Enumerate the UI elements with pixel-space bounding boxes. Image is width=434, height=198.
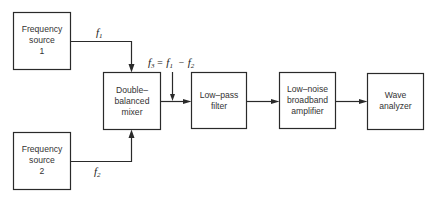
source2-line3: 2 xyxy=(40,166,45,176)
source2-line2: source xyxy=(29,155,55,165)
mixer-to-filter-connection xyxy=(161,99,192,104)
mixer-line3: mixer xyxy=(121,107,142,117)
analyzer-line1: Wave xyxy=(385,90,407,100)
source1-line1: Frequency xyxy=(22,24,63,34)
arrowhead-icon xyxy=(129,64,135,73)
amplifier-line2: broadband xyxy=(287,95,328,105)
f1-label: f1 xyxy=(96,26,103,40)
source1-line2: source xyxy=(29,35,55,45)
block-diagram: Frequency source 1 Frequency source 2 Do… xyxy=(0,0,434,198)
analyzer-line2: analyzer xyxy=(379,101,412,111)
source2-line1: Frequency xyxy=(22,144,63,154)
f3-equation-label: f3=f1−f2 xyxy=(148,56,195,70)
low-pass-filter-block: Low–pass filter xyxy=(192,73,247,129)
amplifier-line1: Low–noise xyxy=(287,84,328,94)
f1-connection xyxy=(71,42,135,73)
double-balanced-mixer-block: Double– balanced mixer xyxy=(104,73,161,130)
lowpass-line2: filter xyxy=(211,101,227,111)
arrowhead-icon xyxy=(271,99,280,104)
amplifier-line3: amplifier xyxy=(291,106,324,116)
wave-analyzer-block: Wave analyzer xyxy=(368,74,424,130)
filter-to-amplifier-connection xyxy=(247,99,280,104)
lowpass-line1: Low–pass xyxy=(200,90,239,100)
mixer-line1: Double– xyxy=(116,85,148,95)
frequency-source-1-block: Frequency source 1 xyxy=(14,13,71,70)
arrowhead-icon xyxy=(359,99,368,104)
source1-line3: 1 xyxy=(40,46,45,56)
f2-connection xyxy=(71,130,135,162)
arrowhead-icon xyxy=(183,99,192,104)
low-noise-amplifier-block: Low–noise broadband amplifier xyxy=(280,73,336,129)
mixer-line2: balanced xyxy=(115,96,150,106)
arrowhead-icon xyxy=(129,130,135,139)
f2-label: f2 xyxy=(94,165,101,179)
arrowhead-icon xyxy=(170,94,175,101)
amplifier-to-analyzer-connection xyxy=(336,99,368,104)
f3-marker-arrow xyxy=(170,72,175,101)
frequency-source-2-block: Frequency source 2 xyxy=(14,133,71,190)
